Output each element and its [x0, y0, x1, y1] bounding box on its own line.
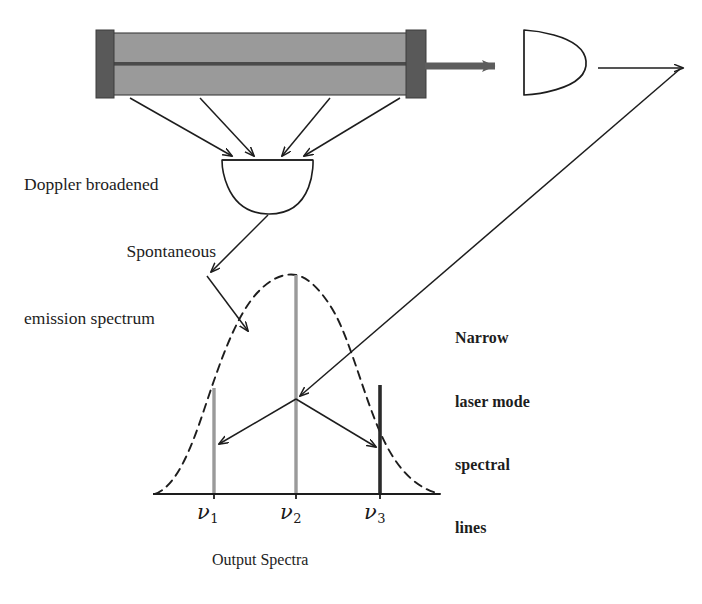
doppler-label-line2: Spontaneous [24, 240, 224, 262]
nu3-symbol: ν [364, 500, 377, 524]
dome-collector-icon [222, 160, 313, 214]
axis-tick-label-nu3: ν3 [364, 500, 386, 526]
doppler-label-line1: Doppler broadened [24, 173, 224, 195]
narrow-label-line2: laser mode [455, 391, 530, 412]
cavity-left-mirror [96, 30, 114, 98]
axis-tick-label-nu2: ν2 [280, 500, 302, 526]
cavity-right-mirror [406, 30, 426, 98]
cavity-axis-line [102, 62, 420, 66]
nu2-subscript: 2 [293, 511, 302, 526]
nu2-symbol: ν [280, 500, 293, 524]
narrow-label-line3: spectral [455, 454, 530, 475]
narrow-mode-label: Narrow laser mode spectral lines [455, 285, 530, 581]
narrow-label-line4: lines [455, 517, 530, 538]
laser-spectra-figure: Doppler broadened Spontaneous emission s… [0, 0, 702, 604]
figure-caption: Output Spectra [212, 550, 308, 570]
nu1-subscript: 1 [210, 511, 219, 526]
narrow-mode-callout-leader [219, 69, 680, 447]
axis-tick-label-nu1: ν1 [197, 500, 219, 526]
laser-mode-lines [214, 275, 380, 494]
half-disc-detector-icon [524, 30, 586, 95]
nu1-symbol: ν [197, 500, 210, 524]
doppler-spectrum-label: Doppler broadened Spontaneous emission s… [24, 128, 224, 374]
nu3-subscript: 3 [377, 511, 386, 526]
doppler-label-line3: emission spectrum [24, 307, 224, 329]
narrow-label-line1: Narrow [455, 327, 530, 348]
spectrum-baseline-axis [153, 494, 440, 499]
laser-cavity-icon [96, 30, 426, 98]
